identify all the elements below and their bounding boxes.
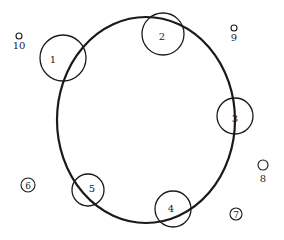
marker-7: 7 <box>230 208 242 220</box>
node-circle-4: 4 <box>155 191 191 227</box>
marker-label: 10 <box>13 40 26 51</box>
marker-label: 8 <box>260 173 266 184</box>
marker-label: 9 <box>231 32 237 43</box>
node-circle-1: 1 <box>40 35 86 81</box>
node-label: 5 <box>89 183 95 194</box>
marker-9: 9 <box>231 25 237 43</box>
marker-circle-shape <box>258 160 268 170</box>
large-circles-group: 12345 <box>40 13 253 227</box>
marker-circle-shape <box>231 25 237 31</box>
node-label: 4 <box>168 203 174 214</box>
node-label: 1 <box>50 54 56 65</box>
marker-circle-shape <box>16 33 22 39</box>
node-circle-shape <box>40 35 86 81</box>
node-circle-5: 5 <box>72 174 104 206</box>
marker-6: 6 <box>21 178 35 192</box>
node-label: 2 <box>159 31 165 42</box>
node-label: 3 <box>232 113 238 124</box>
marker-10: 10 <box>13 33 26 51</box>
marker-label: 6 <box>25 181 31 191</box>
circle-diagram: 12345 109867 <box>0 0 284 240</box>
marker-8: 8 <box>258 160 268 184</box>
marker-label: 7 <box>233 210 239 220</box>
